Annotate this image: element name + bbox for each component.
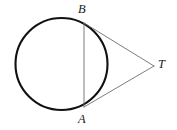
segment-at — [84, 66, 154, 107]
segment-bt — [84, 23, 154, 66]
circle-shape — [16, 18, 108, 110]
geometry-canvas — [0, 0, 177, 130]
vertex-label-a: A — [78, 113, 86, 126]
vertex-label-t: T — [158, 58, 165, 71]
geometry-figure: B A T — [0, 0, 177, 130]
vertex-label-b: B — [78, 3, 86, 16]
